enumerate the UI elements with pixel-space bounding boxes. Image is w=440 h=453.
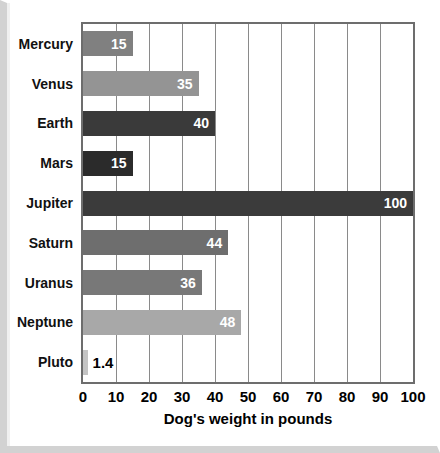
- y-label-pluto: Pluto: [38, 355, 73, 369]
- plot-area: 153540151004436481.4: [81, 22, 415, 384]
- bar-value-label: 1.4: [88, 354, 114, 371]
- x-tick-100: 100: [400, 388, 425, 405]
- bar-value-label: 15: [111, 155, 133, 171]
- bar-value-label: 44: [207, 235, 229, 251]
- bar-row: 15: [83, 151, 413, 176]
- bar-row: 100: [83, 191, 413, 216]
- bar-value-label: 48: [220, 314, 242, 330]
- bar-earth[interactable]: 40: [83, 111, 215, 136]
- x-tick-30: 30: [174, 388, 191, 405]
- bar-venus[interactable]: 35: [83, 71, 199, 96]
- x-tick-0: 0: [79, 388, 87, 405]
- bar-jupiter[interactable]: 100: [83, 191, 413, 216]
- bar-neptune[interactable]: 48: [83, 310, 241, 335]
- bar-chart: 153540151004436481.4 MercuryVenusEarthMa…: [0, 0, 440, 453]
- x-axis-title: Dog's weight in pounds: [81, 410, 415, 427]
- y-label-venus: Venus: [32, 77, 73, 91]
- x-tick-70: 70: [306, 388, 323, 405]
- bar-value-label: 40: [193, 115, 215, 131]
- bar-row: 35: [83, 71, 413, 96]
- bar-row: 40: [83, 111, 413, 136]
- bar-row: 15: [83, 31, 413, 56]
- bars-layer: 153540151004436481.4: [83, 24, 413, 382]
- x-axis-tick-labels: 0102030405060708090100: [81, 388, 415, 410]
- bar-pluto[interactable]: 1.4: [83, 350, 88, 375]
- y-axis-category-labels: MercuryVenusEarthMarsJupiterSaturnUranus…: [0, 22, 77, 384]
- bar-value-label: 15: [111, 36, 133, 52]
- y-label-uranus: Uranus: [25, 276, 73, 290]
- bar-mars[interactable]: 15: [83, 151, 133, 176]
- bar-row: 1.4: [83, 350, 413, 375]
- y-label-mars: Mars: [40, 156, 73, 170]
- x-tick-40: 40: [207, 388, 224, 405]
- x-tick-60: 60: [273, 388, 290, 405]
- y-label-earth: Earth: [37, 116, 73, 130]
- bar-value-label: 35: [177, 76, 199, 92]
- x-tick-90: 90: [372, 388, 389, 405]
- bar-row: 36: [83, 270, 413, 295]
- x-tick-50: 50: [240, 388, 257, 405]
- bar-saturn[interactable]: 44: [83, 230, 228, 255]
- y-label-saturn: Saturn: [29, 236, 73, 250]
- bar-value-label: 100: [384, 195, 413, 211]
- x-tick-10: 10: [108, 388, 125, 405]
- y-label-neptune: Neptune: [17, 315, 73, 329]
- x-tick-20: 20: [141, 388, 158, 405]
- y-label-mercury: Mercury: [19, 37, 73, 51]
- bar-mercury[interactable]: 15: [83, 31, 133, 56]
- y-label-jupiter: Jupiter: [26, 196, 73, 210]
- bar-value-label: 36: [180, 275, 202, 291]
- bar-uranus[interactable]: 36: [83, 270, 202, 295]
- bar-row: 48: [83, 310, 413, 335]
- bar-row: 44: [83, 230, 413, 255]
- x-tick-80: 80: [339, 388, 356, 405]
